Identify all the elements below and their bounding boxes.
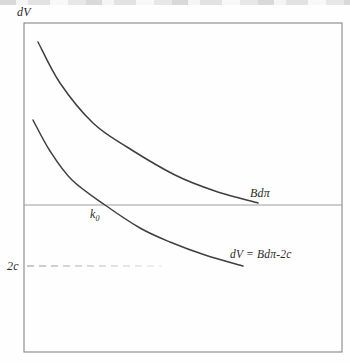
lower-curve-label: dV = Bdπ-2c: [230, 249, 292, 261]
plot-canvas: [0, 0, 350, 363]
plot-frame: [24, 23, 342, 352]
upper-curve-label: Bdπ: [250, 187, 270, 199]
lower-curve: [33, 120, 243, 266]
two-c-value-label: 2c: [7, 260, 19, 272]
economics-figure: dV Bdπ dV = Bdπ-2c k0 2c: [0, 0, 350, 363]
y-axis-label: dV: [17, 6, 31, 18]
k0-subscript: 0: [96, 214, 100, 223]
k0-point-label: k0: [90, 208, 100, 223]
